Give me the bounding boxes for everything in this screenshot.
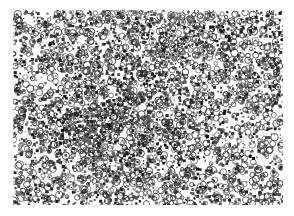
histology-micrograph [13,10,283,205]
